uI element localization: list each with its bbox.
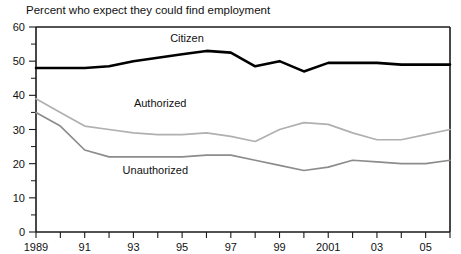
y-tick-label: 40 xyxy=(13,89,25,101)
x-tick-label: 03 xyxy=(371,241,383,253)
x-tick-label: 2001 xyxy=(316,241,340,253)
series-label-unauthorized: Unauthorized xyxy=(123,164,188,176)
y-tick-label: 10 xyxy=(13,192,25,204)
chart-title: Percent who expect they could find emplo… xyxy=(26,4,271,16)
x-tick-label: 93 xyxy=(127,241,139,253)
series-line-citizen xyxy=(36,51,450,72)
y-tick-label: 0 xyxy=(19,226,25,238)
series-label-authorized: Authorized xyxy=(134,97,187,109)
series-line-unauthorized xyxy=(36,112,450,170)
x-tick-label: 91 xyxy=(79,241,91,253)
series-label-citizen: Citizen xyxy=(170,32,204,44)
x-tick-label: 99 xyxy=(273,241,285,253)
x-tick-label: 97 xyxy=(225,241,237,253)
employment-expectation-line-chart: Percent who expect they could find emplo… xyxy=(0,0,461,254)
y-tick-label: 30 xyxy=(13,124,25,136)
x-tick-label: 05 xyxy=(420,241,432,253)
y-tick-label: 50 xyxy=(13,55,25,67)
x-tick-label: 95 xyxy=(176,241,188,253)
x-axis: 1989919395979920010305 xyxy=(24,232,450,253)
series-lines xyxy=(36,51,450,171)
y-tick-label: 60 xyxy=(13,21,25,33)
y-tick-label: 20 xyxy=(13,158,25,170)
series-line-authorized xyxy=(36,99,450,142)
chart-container: Percent who expect they could find emplo… xyxy=(0,0,461,254)
x-tick-label: 1989 xyxy=(24,241,48,253)
